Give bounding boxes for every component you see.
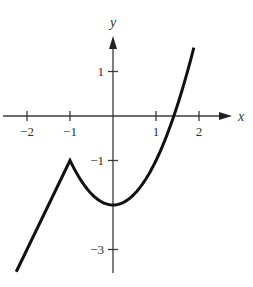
x-axis-label: x (237, 109, 245, 124)
piecewise-function-curve (16, 48, 194, 272)
y-axis-label: y (108, 15, 117, 30)
y-tick-label: 1 (98, 64, 105, 79)
function-curve (16, 48, 194, 272)
x-tick-label: −1 (63, 124, 77, 139)
y-axis-arrow-icon (109, 36, 117, 49)
x-tick-label: −2 (20, 124, 34, 139)
x-tick-label: 2 (196, 124, 203, 139)
axes: x y (3, 15, 245, 273)
x-axis-arrow-icon (219, 112, 232, 120)
function-graph: x y −2−112 1−1−3 (0, 0, 253, 287)
y-tick-label: −1 (90, 153, 104, 168)
x-tick-label: 1 (153, 124, 160, 139)
y-ticks: 1−1−3 (90, 64, 118, 257)
y-tick-label: −3 (90, 242, 104, 257)
